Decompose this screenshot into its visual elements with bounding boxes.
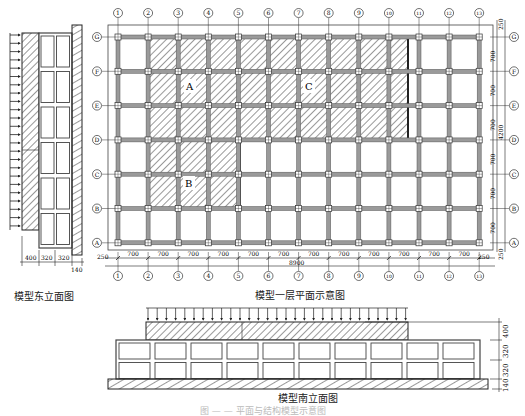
svg-text:700: 700 xyxy=(398,250,410,257)
region-label-A: A xyxy=(185,81,194,92)
svg-text:7: 7 xyxy=(297,9,301,16)
region-label-B: B xyxy=(185,178,192,189)
svg-text:2: 2 xyxy=(146,9,150,16)
svg-text:700: 700 xyxy=(489,188,496,200)
svg-text:1: 1 xyxy=(116,9,120,16)
svg-text:5: 5 xyxy=(236,272,240,279)
svg-text:11: 11 xyxy=(416,274,422,279)
south-dim-320b: 320 xyxy=(502,364,510,377)
plan-edge-right: 250 xyxy=(478,253,490,260)
svg-text:1: 1 xyxy=(116,272,120,279)
svg-text:700: 700 xyxy=(489,119,496,131)
south-dim-320a: 320 xyxy=(502,345,510,358)
svg-text:700: 700 xyxy=(218,250,230,257)
svg-text:8: 8 xyxy=(327,9,331,16)
svg-text:3: 3 xyxy=(176,272,180,279)
east-dim-320b: 320 xyxy=(58,254,70,261)
svg-text:8: 8 xyxy=(327,272,331,279)
plan-total-width: 4200 xyxy=(497,125,504,140)
svg-text:A: A xyxy=(511,239,517,246)
svg-text:13: 13 xyxy=(476,11,482,16)
svg-text:700: 700 xyxy=(188,250,200,257)
south-dim-140: 140 xyxy=(502,379,510,392)
svg-text:250: 250 xyxy=(497,248,504,260)
svg-text:F: F xyxy=(512,68,516,75)
south-dim-400: 400 xyxy=(502,325,510,338)
floor-plan: 1122334455667788991010111112121313GGFFEE… xyxy=(93,9,519,281)
svg-text:6: 6 xyxy=(267,9,271,16)
svg-text:6: 6 xyxy=(267,272,271,279)
svg-text:2: 2 xyxy=(146,272,150,279)
svg-text:700: 700 xyxy=(489,85,496,97)
svg-text:E: E xyxy=(512,102,516,109)
svg-text:9: 9 xyxy=(357,272,361,279)
svg-text:E: E xyxy=(95,102,99,109)
svg-text:700: 700 xyxy=(308,250,320,257)
svg-text:3: 3 xyxy=(176,9,180,16)
svg-text:D: D xyxy=(95,136,100,143)
svg-text:4: 4 xyxy=(206,272,210,279)
load-arrows xyxy=(10,33,20,230)
east-dim-400: 400 xyxy=(25,254,37,261)
plan-edge-left: 250 xyxy=(97,253,109,260)
svg-text:13: 13 xyxy=(476,274,482,279)
svg-text:700: 700 xyxy=(248,250,260,257)
svg-text:C: C xyxy=(95,171,100,178)
svg-text:700: 700 xyxy=(127,250,139,257)
figure-caption: 图 — — 平面与结构模型示意图 xyxy=(200,404,326,416)
structural-drawing: 400 320 320 140 112233445566778899101011… xyxy=(0,0,525,416)
east-dim-140: 140 xyxy=(71,266,83,273)
east-dim-320a: 320 xyxy=(41,254,53,261)
svg-text:700: 700 xyxy=(368,250,380,257)
svg-text:9: 9 xyxy=(357,9,361,16)
svg-text:F: F xyxy=(95,68,99,75)
plan-caption: 模型一层平面示意图 xyxy=(255,287,345,302)
svg-text:B: B xyxy=(95,205,100,212)
south-elevation: 400 320 320 140 xyxy=(108,308,510,392)
svg-text:700: 700 xyxy=(428,250,440,257)
svg-text:G: G xyxy=(512,33,517,40)
plan-total-length: 8900 xyxy=(289,259,304,266)
svg-text:4: 4 xyxy=(206,9,210,16)
svg-text:700: 700 xyxy=(458,250,470,257)
svg-text:A: A xyxy=(94,239,100,246)
svg-text:700: 700 xyxy=(489,222,496,234)
svg-text:C: C xyxy=(512,171,517,178)
svg-text:5: 5 xyxy=(236,9,240,16)
svg-text:700: 700 xyxy=(278,250,290,257)
svg-text:D: D xyxy=(512,136,517,143)
svg-text:700: 700 xyxy=(489,153,496,165)
east-elevation-caption: 模型东立面图 xyxy=(14,288,74,303)
svg-text:700: 700 xyxy=(489,51,496,63)
svg-text:12: 12 xyxy=(446,11,452,16)
south-elevation-caption: 模型南立面图 xyxy=(278,390,338,405)
svg-text:B: B xyxy=(512,205,517,212)
svg-text:G: G xyxy=(95,33,100,40)
svg-text:700: 700 xyxy=(157,250,169,257)
east-elevation: 400 320 320 140 xyxy=(10,25,84,273)
region-label-C: C xyxy=(305,81,313,92)
svg-text:11: 11 xyxy=(416,11,422,16)
svg-text:10: 10 xyxy=(386,274,392,279)
svg-text:700: 700 xyxy=(338,250,350,257)
svg-text:12: 12 xyxy=(446,274,452,279)
svg-text:10: 10 xyxy=(386,11,392,16)
svg-text:7: 7 xyxy=(297,272,301,279)
svg-text:250: 250 xyxy=(497,18,504,30)
